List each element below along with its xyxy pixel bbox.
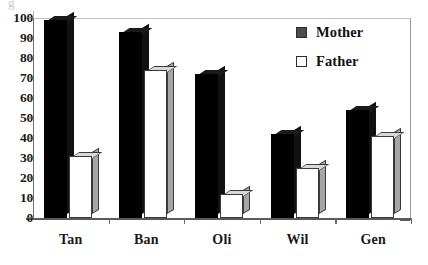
bar-front-face [144,70,167,218]
x-axis-tick-label: Oli [212,232,231,248]
x-axis-tick-mark [184,218,185,224]
bar-front-face [271,134,294,218]
x-axis-tick-label: Wil [287,232,309,248]
bar-oli-father [220,194,243,218]
bar-tan-mother [44,20,67,218]
y-axis-tick-mark [27,177,33,178]
y-axis-tick-mark [27,197,33,198]
bar-side-face [218,66,225,214]
y-axis-tick-mark [27,137,33,138]
bar-front-face [346,110,369,218]
bar-tan-father [69,156,92,218]
y-axis-tick-mark [27,157,33,158]
bar-front-face [296,168,319,218]
x-axis-tick-mark [411,218,412,224]
x-axis-tick-mark [109,218,110,224]
x-axis-line [26,218,412,220]
legend-item-mother: Mother [296,24,406,40]
y-axis-tick-mark [27,57,33,58]
legend: Mother Father [296,24,406,82]
x-axis-tick-mark [260,218,261,224]
y-axis-tick-mark [27,77,33,78]
bar-front-face [119,32,142,218]
bar-wil-mother [271,134,294,218]
bar-front-face [371,136,394,218]
bar-ban-mother [119,32,142,218]
x-axis-tick-label: Ban [134,232,159,248]
bar-oli-mother [195,74,218,218]
bar-chart: g 0102030405060708090100 TanBanOliWilGen… [0,0,428,265]
bar-gen-mother [346,110,369,218]
bar-side-face [167,62,174,214]
legend-swatch-father-icon [296,56,307,67]
y-axis: 0102030405060708090100 [0,0,33,265]
bar-gen-father [371,136,394,218]
bar-front-face [220,194,243,218]
x-axis-tick-label: Tan [59,232,82,248]
legend-swatch-mother-icon [296,27,307,38]
bar-wil-father [296,168,319,218]
bar-front-face [44,20,67,218]
y-axis-tick-mark [27,97,33,98]
bar-side-face [394,128,401,214]
bar-front-face [195,74,218,218]
bar-ban-father [144,70,167,218]
y-axis-tick-mark [27,37,33,38]
y-axis-tick-mark [27,117,33,118]
bar-front-face [69,156,92,218]
y-axis-tick-mark [27,217,33,218]
y-axis-tick-mark [27,17,33,18]
x-axis-tick-mark [335,218,336,224]
legend-label-mother: Mother [316,25,363,40]
x-axis-tick-label: Gen [360,232,386,248]
legend-label-father: Father [316,54,358,69]
legend-item-father: Father [296,53,406,69]
